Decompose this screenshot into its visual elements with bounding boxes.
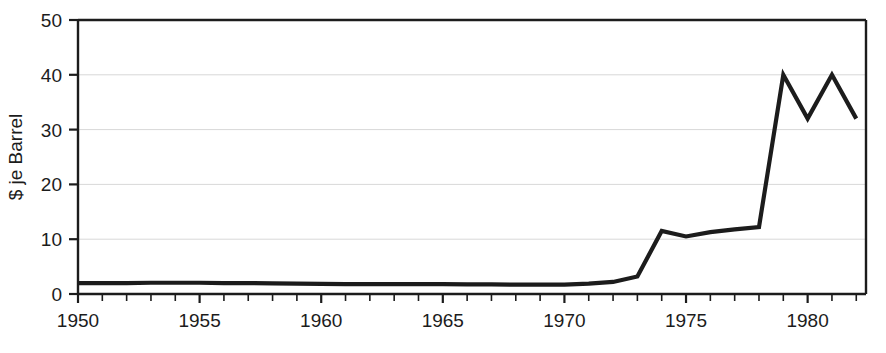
y-tick-label-10: 10 [41, 229, 62, 250]
y-tick-label-0: 0 [51, 284, 62, 305]
y-tick-label-50: 50 [41, 10, 62, 31]
x-axis-tick-labels: 1950195519601965197019751980 [57, 310, 829, 331]
x-tick-label-1965: 1965 [422, 310, 464, 331]
gridlines [78, 75, 866, 239]
y-tick-label-30: 30 [41, 120, 62, 141]
x-tick-label-1970: 1970 [543, 310, 585, 331]
y-tick-label-20: 20 [41, 174, 62, 195]
x-tick-label-1955: 1955 [178, 310, 220, 331]
y-tick-label-40: 40 [41, 65, 62, 86]
line-chart: 1950195519601965197019751980 01020304050… [0, 0, 886, 353]
data-series-group [78, 75, 856, 285]
x-tick-label-1975: 1975 [665, 310, 707, 331]
y-axis-tick-labels: 01020304050 [41, 10, 62, 305]
x-axis-ticks [78, 294, 856, 303]
y-axis-title: $ je Barrel [5, 114, 26, 201]
y-axis-ticks [69, 20, 78, 294]
x-tick-label-1980: 1980 [786, 310, 828, 331]
series-line-0 [78, 75, 856, 285]
x-tick-label-1960: 1960 [300, 310, 342, 331]
plot-frame [78, 20, 866, 294]
x-tick-label-1950: 1950 [57, 310, 99, 331]
chart-figure: 1950195519601965197019751980 01020304050… [0, 0, 886, 353]
